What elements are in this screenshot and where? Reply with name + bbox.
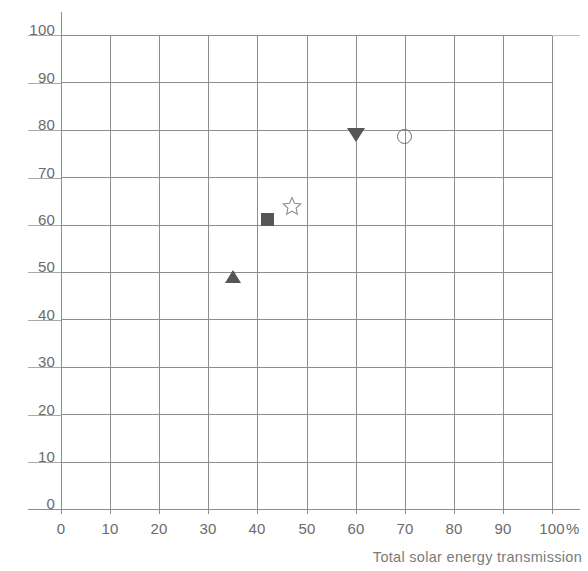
y-tick-label-10: 10 bbox=[3, 449, 55, 464]
gridline-y-30 bbox=[61, 367, 552, 368]
x-tick-mark bbox=[208, 505, 209, 514]
gridline-y-10 bbox=[61, 462, 552, 463]
y-tick-label-30: 30 bbox=[3, 354, 55, 369]
data-point-circle bbox=[397, 129, 412, 144]
x-axis-title: Total solar energy transmission bbox=[373, 549, 582, 565]
data-point-square bbox=[261, 213, 274, 226]
y-axis-line bbox=[61, 12, 62, 510]
x-tick-mark bbox=[61, 505, 62, 514]
y-tick-label-40: 40 bbox=[3, 307, 55, 322]
x-tick-label-10: 10 bbox=[90, 521, 130, 536]
gridline-x-100 bbox=[552, 35, 553, 509]
x-tick-mark bbox=[356, 505, 357, 514]
y-tick-label-80: 80 bbox=[3, 117, 55, 132]
scatter-chart: 100 90 80 70 60 50 40 30 20 10 0 bbox=[0, 0, 588, 571]
x-tick-label-80: 80 bbox=[434, 521, 474, 536]
x-tick-label-30: 30 bbox=[188, 521, 228, 536]
x-tick-mark bbox=[307, 505, 308, 514]
gridline-y-60 bbox=[61, 225, 552, 226]
gridline-y-50 bbox=[61, 272, 552, 273]
y-tick-label-90: 90 bbox=[3, 70, 55, 85]
gridline-y-70 bbox=[61, 177, 552, 178]
data-point-triangle-up bbox=[225, 270, 241, 283]
plot-area bbox=[61, 35, 552, 509]
x-tick-mark bbox=[552, 505, 553, 514]
x-axis-unit-label: % bbox=[566, 521, 579, 536]
y-tick-label-70: 70 bbox=[3, 165, 55, 180]
plot-top-frame bbox=[61, 35, 580, 36]
x-tick-label-50: 50 bbox=[287, 521, 327, 536]
x-tick-label-60: 60 bbox=[336, 521, 376, 536]
gridline-y-40 bbox=[61, 319, 552, 320]
data-point-triangle-down bbox=[347, 128, 365, 142]
y-tick-label-60: 60 bbox=[3, 212, 55, 227]
y-tick-label-100: 100 bbox=[3, 22, 55, 37]
x-tick-label-40: 40 bbox=[237, 521, 277, 536]
y-axis-labels: 100 90 80 70 60 50 40 30 20 10 0 bbox=[0, 0, 55, 571]
x-tick-mark bbox=[454, 505, 455, 514]
gridline-y-80 bbox=[61, 130, 552, 131]
x-tick-label-70: 70 bbox=[385, 521, 425, 536]
x-tick-mark bbox=[405, 505, 406, 514]
data-point-star bbox=[282, 196, 302, 216]
x-tick-label-0: 0 bbox=[41, 521, 81, 536]
y-tick-label-20: 20 bbox=[3, 402, 55, 417]
plot-top-frame-extension bbox=[552, 35, 580, 36]
x-tick-mark bbox=[503, 505, 504, 514]
x-tick-mark bbox=[257, 505, 258, 514]
x-tick-label-20: 20 bbox=[139, 521, 179, 536]
x-tick-mark bbox=[159, 505, 160, 514]
gridline-y-20 bbox=[61, 414, 552, 415]
x-tick-label-90: 90 bbox=[483, 521, 523, 536]
gridline-y-90 bbox=[61, 82, 552, 83]
y-tick-label-50: 50 bbox=[3, 259, 55, 274]
x-tick-mark bbox=[110, 505, 111, 514]
